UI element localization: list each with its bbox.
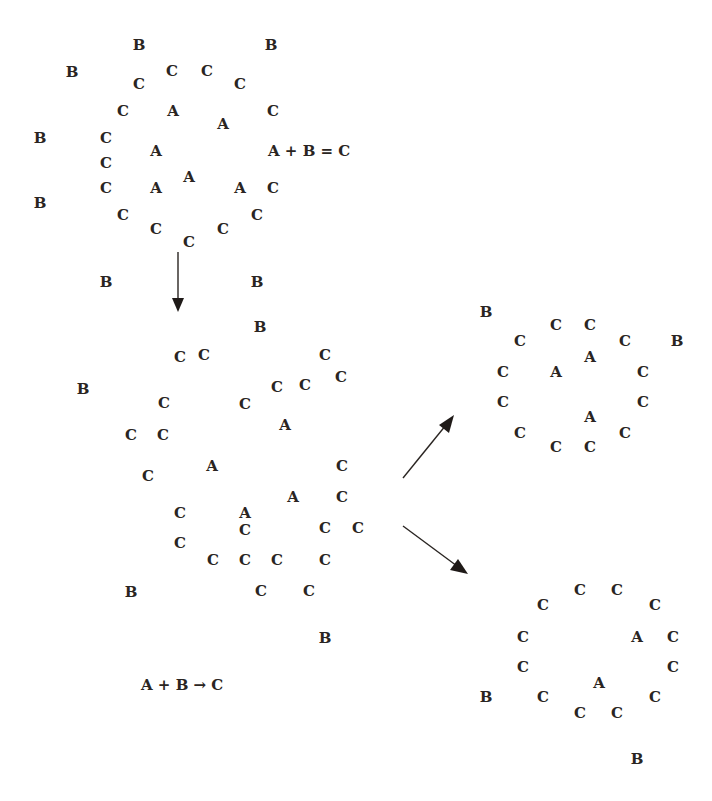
panel-outcome-lower: CCCCCCCCCCCCAABB <box>480 581 679 768</box>
particle-c: C <box>234 75 246 93</box>
particle-c: C <box>574 581 586 599</box>
particle-c: C <box>550 438 562 456</box>
particle-c: C <box>497 363 509 381</box>
particle-c: C <box>517 658 529 676</box>
particle-c: C <box>299 376 311 394</box>
particle-c: C <box>336 457 348 475</box>
particle-a: A <box>216 115 229 133</box>
particle-c: C <box>271 378 283 396</box>
particle-c: C <box>157 426 169 444</box>
reaction-diagram: BBBBBBBCCCCCCCCCCCCCCCAAAAAA BBBBCCCCCCC… <box>0 0 712 801</box>
particle-a: A <box>630 628 643 646</box>
arrow-down-right-icon <box>450 559 468 574</box>
particle-c: C <box>514 424 526 442</box>
particle-c: C <box>217 220 229 238</box>
particle-c: C <box>319 346 331 364</box>
particle-c: C <box>537 596 549 614</box>
particle-b: B <box>66 63 79 81</box>
particle-b: B <box>34 194 47 212</box>
particle-c: C <box>637 363 649 381</box>
particle-a: A <box>583 348 596 366</box>
particle-c: C <box>133 75 145 93</box>
particle-c: C <box>497 393 509 411</box>
particle-a: A <box>205 457 218 475</box>
particle-b: B <box>631 750 644 768</box>
particle-c: C <box>537 688 549 706</box>
particle-c: C <box>271 551 283 569</box>
particle-c: C <box>335 368 347 386</box>
arrow-intermediate-to-lower <box>403 526 468 574</box>
particle-c: C <box>174 504 186 522</box>
particle-c: C <box>667 628 679 646</box>
panel-outcome-upper: BBCCCCCCCCCCCCAAA <box>480 303 684 456</box>
particle-c: C <box>174 534 186 552</box>
equation-equilibrium: A + B = C <box>267 142 350 160</box>
particle-c: C <box>352 519 364 537</box>
particle-c: C <box>142 467 154 485</box>
arrow-down-icon <box>172 298 184 312</box>
particle-b: B <box>480 303 493 321</box>
particle-c: C <box>619 424 631 442</box>
particle-b: B <box>133 36 146 54</box>
arrow-shaft <box>403 425 446 478</box>
particle-b: B <box>254 318 267 336</box>
particle-c: C <box>239 395 251 413</box>
particle-c: C <box>667 658 679 676</box>
particle-b: B <box>251 273 264 291</box>
particle-c: C <box>514 332 526 350</box>
particle-c: C <box>117 206 129 224</box>
particle-c: C <box>611 581 623 599</box>
particle-c: C <box>584 316 596 334</box>
particle-a: A <box>278 416 291 434</box>
particle-a: A <box>149 142 162 160</box>
particle-c: C <box>649 688 661 706</box>
particle-c: C <box>174 348 186 366</box>
diagram-canvas: BBBBBBBCCCCCCCCCCCCCCCAAAAAA BBBBCCCCCCC… <box>0 0 712 801</box>
particle-b: B <box>125 583 138 601</box>
particle-c: C <box>100 179 112 197</box>
particle-c: C <box>619 332 631 350</box>
particle-a: A <box>583 408 596 426</box>
particle-c: C <box>158 394 170 412</box>
particle-c: C <box>183 233 195 251</box>
particle-c: C <box>239 521 251 539</box>
equation-reaction: A + B → C <box>140 676 223 694</box>
particle-c: C <box>611 704 623 722</box>
particle-a: A <box>549 363 562 381</box>
particle-c: C <box>550 316 562 334</box>
particle-b: B <box>480 688 493 706</box>
particle-b: B <box>77 380 90 398</box>
particle-c: C <box>319 519 331 537</box>
particle-a: A <box>592 674 605 692</box>
panel-intermediate-state: BBBBCCCCCCCCCCCCCCCCCCCCCCCCAAAA <box>77 318 364 647</box>
particle-c: C <box>267 102 279 120</box>
particle-c: C <box>100 129 112 147</box>
particle-c: C <box>251 206 263 224</box>
particle-c: C <box>207 551 219 569</box>
particle-c: C <box>574 704 586 722</box>
particle-c: C <box>125 426 137 444</box>
particle-b: B <box>671 332 684 350</box>
particle-c: C <box>517 628 529 646</box>
arrow-shaft <box>403 526 457 566</box>
particle-c: C <box>637 393 649 411</box>
particle-c: C <box>303 582 315 600</box>
particle-c: C <box>166 62 178 80</box>
arrow-intermediate-to-upper <box>403 415 454 478</box>
particle-a: A <box>233 179 246 197</box>
particle-c: C <box>584 438 596 456</box>
particle-c: C <box>239 551 251 569</box>
particle-a: A <box>286 488 299 506</box>
particle-c: C <box>198 346 210 364</box>
particle-a: A <box>238 504 251 522</box>
particle-a: A <box>166 102 179 120</box>
particle-c: C <box>100 154 112 172</box>
particle-c: C <box>319 551 331 569</box>
particle-c: C <box>150 220 162 238</box>
particle-c: C <box>117 102 129 120</box>
particle-b: B <box>100 273 113 291</box>
particle-c: C <box>649 596 661 614</box>
particle-b: B <box>319 629 332 647</box>
panel-initial-state: BBBBBBBCCCCCCCCCCCCCCCAAAAAA <box>34 36 279 291</box>
particle-c: C <box>267 179 279 197</box>
